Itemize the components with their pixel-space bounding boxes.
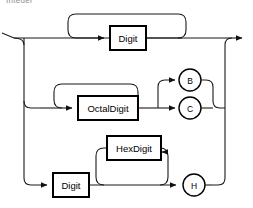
digit-box-bottom-label: Digit (61, 180, 80, 191)
octaldigit-box-label: OctalDigit (87, 103, 129, 114)
branch-hex: Digit HexDigit H (40, 136, 212, 197)
digit-box-top-label: Digit (118, 33, 137, 44)
terminal-h-label: H (191, 181, 197, 191)
railroad-diagram-canvas: Integer Digit (0, 0, 253, 208)
hexdigit-box-label: HexDigit (116, 143, 152, 154)
terminal-c-label: C (187, 104, 193, 114)
terminal-b-label: B (187, 76, 193, 86)
branch-octal: OctalDigit B C (40, 69, 225, 120)
railroad-diagram-svg: Digit OctalDigit B C (0, 0, 253, 208)
exit-rail (212, 38, 242, 185)
branch-decimal: Digit (68, 14, 225, 50)
